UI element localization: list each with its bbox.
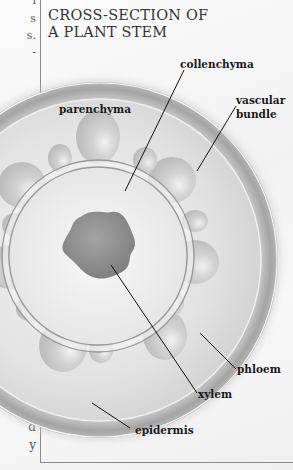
stem-cross-section-diagram — [0, 0, 293, 470]
label-collenchyma: collenchyma — [180, 58, 254, 70]
label-parenchyma: parenchyma — [59, 103, 131, 115]
vascular-bundle — [76, 110, 120, 164]
label-phloem: phloem — [237, 363, 281, 375]
label-vascular-bundle: vascular bundle — [236, 93, 285, 121]
label-xylem: xylem — [198, 388, 232, 400]
label-epidermis: epidermis — [135, 424, 194, 436]
